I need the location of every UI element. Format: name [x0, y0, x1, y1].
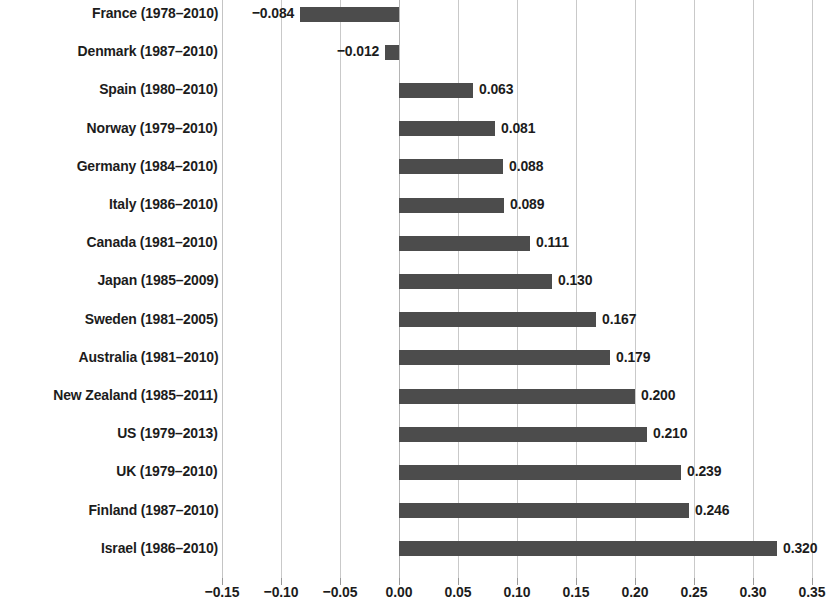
bar	[399, 350, 610, 365]
bar	[399, 159, 503, 174]
value-label: 0.167	[602, 310, 636, 328]
category-label: Japan (1985–2009)	[97, 271, 218, 289]
bar	[399, 198, 504, 213]
value-label: 0.246	[695, 501, 729, 519]
category-label: Norway (1979–2010)	[87, 119, 218, 137]
gridline	[812, 0, 813, 578]
category-label: Sweden (1981–2005)	[85, 310, 218, 328]
gridline	[753, 0, 754, 578]
value-label: 0.210	[653, 424, 687, 442]
value-label: 0.179	[616, 348, 650, 366]
x-axis-tick-label: 0.10	[504, 583, 531, 601]
x-axis-tick-label: 0.25	[681, 583, 708, 601]
value-label: 0.088	[509, 157, 543, 175]
value-label: 0.320	[783, 539, 817, 557]
x-axis-tick-label: 0.35	[799, 583, 826, 601]
bar	[399, 312, 596, 327]
category-label: Australia (1981–2010)	[78, 348, 218, 366]
x-axis-tick-label: 0.30	[740, 583, 767, 601]
bar	[399, 541, 777, 556]
gridline	[694, 0, 695, 578]
category-label: Italy (1986–2010)	[109, 195, 218, 213]
category-label: Denmark (1987–2010)	[78, 42, 218, 60]
bar-chart: France (1978–2010)Denmark (1987–2010)Spa…	[0, 0, 832, 607]
x-axis-tick-label: 0.20	[622, 583, 649, 601]
category-label: France (1978–2010)	[92, 4, 218, 22]
category-label: New Zealand (1985–2011)	[54, 386, 218, 404]
category-label: UK (1979–2010)	[117, 462, 218, 480]
bar	[399, 236, 530, 251]
bar	[399, 389, 635, 404]
value-label: 0.200	[641, 386, 675, 404]
category-label: Finland (1987–2010)	[88, 501, 218, 519]
value-label: −0.084	[251, 4, 294, 22]
category-label: US (1979–2013)	[118, 424, 218, 442]
value-label: −0.012	[336, 42, 379, 60]
gridline	[281, 0, 282, 578]
gridline	[635, 0, 636, 578]
gridline	[340, 0, 341, 578]
category-label: Germany (1984–2010)	[77, 157, 218, 175]
x-axis-tick-label: 0.05	[445, 583, 472, 601]
category-label: Israel (1986–2010)	[101, 539, 218, 557]
bar	[399, 274, 552, 289]
plot-area: France (1978–2010)Denmark (1987–2010)Spa…	[0, 0, 832, 607]
gridline	[222, 0, 223, 578]
x-axis-tick-label: −0.05	[323, 583, 358, 601]
value-label: 0.063	[479, 80, 513, 98]
value-label: 0.081	[501, 119, 535, 137]
x-axis-tick-label: −0.15	[205, 583, 240, 601]
value-label: 0.239	[687, 462, 721, 480]
x-axis-tick-label: 0.15	[563, 583, 590, 601]
x-axis-tick-label: 0.00	[386, 583, 413, 601]
value-label: 0.130	[558, 271, 592, 289]
value-label: 0.089	[510, 195, 544, 213]
x-axis-tick-label: −0.10	[264, 583, 299, 601]
bar	[300, 7, 399, 22]
bar	[399, 503, 689, 518]
category-label: Canada (1981–2010)	[87, 233, 218, 251]
category-label: Spain (1980–2010)	[99, 80, 218, 98]
gridline	[517, 0, 518, 578]
bar	[399, 121, 495, 136]
bar	[399, 465, 681, 480]
bar	[385, 45, 399, 60]
value-label: 0.111	[536, 233, 569, 251]
bar	[399, 83, 473, 98]
bar	[399, 427, 647, 442]
